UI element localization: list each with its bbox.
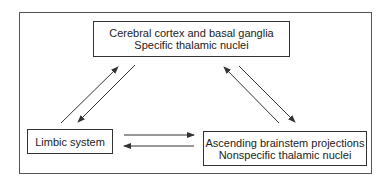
arrow-right-to-top (224, 67, 279, 123)
arrows-layer (0, 0, 392, 184)
arrow-top-to-left (78, 65, 135, 122)
arrow-top-to-right (239, 66, 295, 122)
arrow-left-to-top (61, 67, 118, 123)
